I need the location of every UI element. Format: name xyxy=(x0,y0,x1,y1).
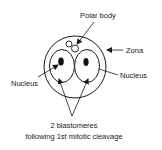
nucleus-right xyxy=(83,58,88,66)
label-nucleus-left: Nucleus xyxy=(11,79,38,88)
blastomere-right xyxy=(75,50,100,83)
label-polar-body: Polar body xyxy=(80,11,116,20)
polar-body-2 xyxy=(72,45,79,52)
nucleus-left xyxy=(58,58,64,66)
label-nucleus-right: Nucleus xyxy=(120,71,147,80)
polar-body-1 xyxy=(66,41,72,47)
label-blastomeres-line2: following 1st mitotic cleavage xyxy=(25,132,122,141)
label-zona: Zona xyxy=(126,46,144,55)
blastomere-left xyxy=(50,50,75,83)
label-blastomeres-line1: 2 blastomeres xyxy=(50,121,97,130)
embryo-diagram: Polar body Zona Nucleus Nucleus 2 blasto… xyxy=(0,0,162,150)
